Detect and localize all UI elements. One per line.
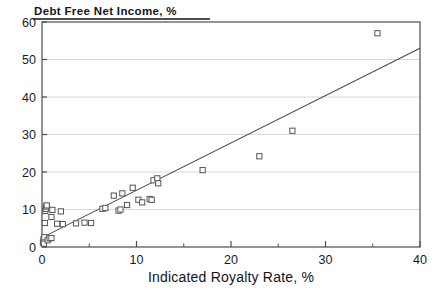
data-point-marker xyxy=(44,203,49,208)
data-point-marker xyxy=(290,128,295,133)
data-point-marker xyxy=(257,154,262,159)
y-tick-label: 10 xyxy=(22,203,36,217)
data-point-marker xyxy=(42,220,47,225)
data-point-marker xyxy=(111,193,116,198)
y-tick-label: 30 xyxy=(22,128,36,142)
y-axis: 0102030405060 xyxy=(22,16,47,255)
y-tick-label: 0 xyxy=(29,241,36,255)
data-points xyxy=(40,31,380,247)
data-point-marker xyxy=(55,221,60,226)
data-point-marker xyxy=(58,209,63,214)
chart-container: 0102030405060010203040Debt Free Net Inco… xyxy=(0,0,446,298)
x-axis: 010203040 xyxy=(39,241,427,267)
data-point-marker xyxy=(82,220,87,225)
x-tick-label: 30 xyxy=(319,253,333,267)
data-point-marker xyxy=(200,168,205,173)
data-point-marker xyxy=(103,205,108,210)
data-point-marker xyxy=(60,222,65,227)
data-point-marker xyxy=(156,181,161,186)
data-point-marker xyxy=(89,220,94,225)
chart-title: Debt Free Net Income, % xyxy=(34,5,177,17)
y-tick-label: 20 xyxy=(22,166,36,180)
x-tick-label: 40 xyxy=(413,253,427,267)
y-tick-label: 60 xyxy=(22,16,36,30)
scatter-plot: 0102030405060010203040Debt Free Net Inco… xyxy=(0,0,446,298)
data-point-marker xyxy=(140,200,145,205)
y-tick-label: 40 xyxy=(22,91,36,105)
grid-lines xyxy=(42,60,420,210)
x-axis-label: Indicated Royalty Rate, % xyxy=(148,269,314,285)
data-point-marker xyxy=(118,207,123,212)
data-point-marker xyxy=(130,185,135,190)
x-tick-label: 20 xyxy=(224,253,238,267)
data-point-marker xyxy=(375,31,380,36)
data-point-marker xyxy=(149,197,154,202)
y-tick-label: 50 xyxy=(22,53,36,67)
x-tick-label: 0 xyxy=(39,253,46,267)
data-point-marker xyxy=(124,202,129,207)
x-tick-label: 10 xyxy=(130,253,144,267)
data-point-marker xyxy=(120,191,125,196)
data-point-marker xyxy=(73,221,78,226)
data-point-marker xyxy=(49,214,54,219)
data-point-marker xyxy=(50,207,55,212)
data-point-marker xyxy=(49,235,54,240)
